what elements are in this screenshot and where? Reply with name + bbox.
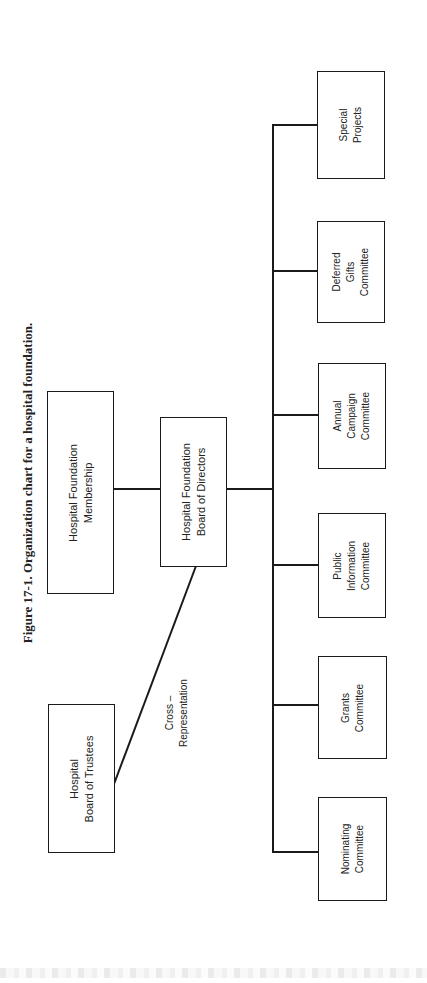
cross-representation-line <box>114 566 196 784</box>
figure-caption: Figure 17-1. Organization chart for a ho… <box>20 323 36 644</box>
committee-label: Deferred Gifts Committee <box>330 248 372 296</box>
membership-box: Hospital Foundation Membership <box>47 391 114 594</box>
committee-special-projects: Special Projects <box>317 71 385 179</box>
board-of-directors-box: Hospital Foundation Board of Directors <box>160 417 227 567</box>
board-of-directors-label: Hospital Foundation Board of Directors <box>179 443 209 541</box>
board-of-trustees-label: Hospital Board of Trustees <box>67 735 97 822</box>
committee-grants: Grants Committee <box>318 656 387 759</box>
membership-label: Hospital Foundation Membership <box>66 444 96 542</box>
committee-label: Nominating Committee <box>339 824 367 875</box>
board-of-trustees-box: Hospital Board of Trustees <box>48 704 115 853</box>
cross-representation-label: Cross – Representation <box>163 679 191 747</box>
committee-nominating: Nominating Committee <box>318 797 387 901</box>
page-edge-artifact <box>0 968 427 978</box>
committee-label: Grants Committee <box>339 683 367 731</box>
committee-label: Public Information Committee <box>331 540 373 590</box>
committee-annual-campaign: Annual Campaign Committee <box>318 363 386 469</box>
committee-label: Annual Campaign Committee <box>331 392 373 440</box>
committee-public-information: Public Information Committee <box>318 513 386 618</box>
committee-label: Special Projects <box>337 107 365 143</box>
committee-deferred-gifts: Deferred Gifts Committee <box>317 221 385 323</box>
